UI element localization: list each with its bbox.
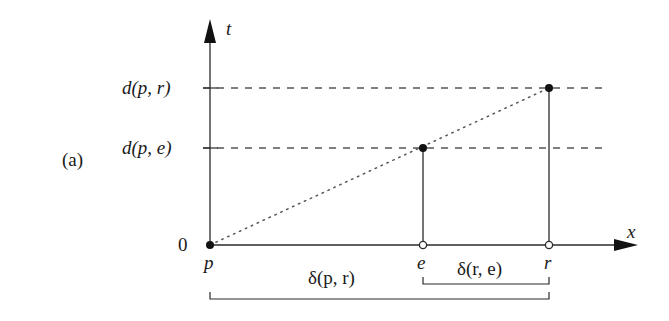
bracket-label-delta-p-r: δ(p, r) (308, 267, 355, 289)
bracket-label-delta-r-e: δ(r, e) (457, 258, 502, 280)
point-e-open (419, 241, 426, 248)
x-axis-label: x (626, 221, 636, 242)
origin-label: 0 (178, 234, 188, 255)
point-p (206, 241, 214, 249)
point-r-top (545, 84, 553, 92)
dotted-diagonal-line (210, 88, 549, 245)
panel-label: (a) (62, 149, 83, 171)
point-label-e: e (417, 252, 425, 273)
diagram-canvas: (a) t x 0 d(p, r) d(p, e) p e r δ(r, e) … (0, 0, 669, 321)
t-axis-arrow-icon (204, 19, 216, 43)
level-label-dpe: d(p, e) (122, 137, 172, 159)
t-axis-label: t (226, 18, 232, 39)
point-label-p: p (202, 252, 214, 273)
point-label-r: r (544, 252, 552, 273)
bracket-delta-p-r (210, 292, 549, 299)
point-r-open (545, 241, 552, 248)
level-label-dpr: d(p, r) (122, 77, 171, 99)
point-e-top (419, 144, 427, 152)
